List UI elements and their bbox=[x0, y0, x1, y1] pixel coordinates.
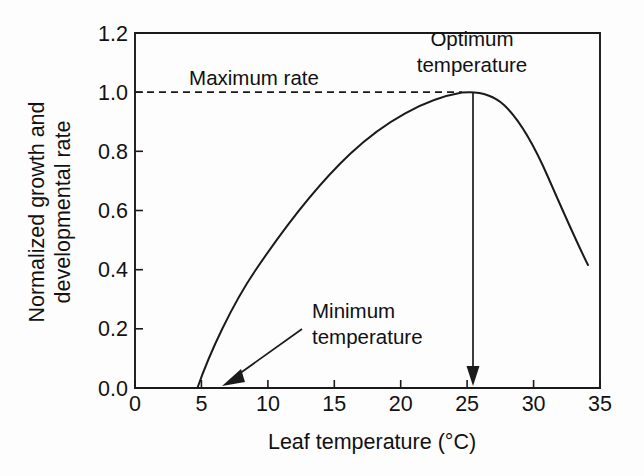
y-tick-label-0.4: 0.4 bbox=[98, 258, 128, 282]
minimum-arrow-head bbox=[222, 369, 245, 386]
x-tick-label-30: 30 bbox=[522, 392, 546, 416]
x-tick-label-5: 5 bbox=[195, 392, 207, 416]
growth-rate-vs-leaf-temperature-chart: 1.2 1.0 0.8 0.6 0.4 0.2 0.0 0 5 10 15 20 bbox=[0, 0, 644, 476]
annotation-optimum-temperature: Optimum temperature bbox=[417, 27, 528, 76]
optimum-temperature-arrow bbox=[467, 93, 480, 387]
x-tick-label-10: 10 bbox=[256, 392, 280, 416]
annotation-minimum-temperature: Minimum temperature bbox=[312, 299, 423, 348]
x-tick-label-0: 0 bbox=[129, 392, 141, 416]
y-tick-label-1.2: 1.2 bbox=[98, 22, 128, 46]
minimum-arrow-shaft bbox=[232, 329, 302, 379]
x-axis-title: Leaf temperature (°C) bbox=[268, 430, 476, 454]
annotation-optimum-line-1: Optimum bbox=[430, 27, 513, 50]
y-axis-title: Normalized growth and developmental rate bbox=[25, 101, 75, 322]
x-tick-label-25: 25 bbox=[455, 392, 479, 416]
minimum-temperature-arrow bbox=[222, 329, 302, 386]
y-tick-label-0.0: 0.0 bbox=[98, 377, 128, 401]
y-axis-title-line-2: developmental rate bbox=[51, 121, 75, 304]
x-tick-label-15: 15 bbox=[322, 392, 346, 416]
x-tick-label-20: 20 bbox=[389, 392, 413, 416]
x-axis-ticks bbox=[135, 380, 600, 388]
y-tick-label-0.8: 0.8 bbox=[98, 140, 128, 164]
annotation-maximum-rate: Maximum rate bbox=[189, 66, 319, 89]
y-axis-ticks bbox=[135, 33, 143, 388]
y-axis-title-line-1: Normalized growth and bbox=[25, 101, 49, 322]
annotation-minimum-line-2: temperature bbox=[312, 325, 423, 348]
figure-canvas: 1.2 1.0 0.8 0.6 0.4 0.2 0.0 0 5 10 15 20 bbox=[0, 0, 644, 476]
y-tick-label-0.2: 0.2 bbox=[98, 317, 128, 341]
y-tick-label-0.6: 0.6 bbox=[98, 199, 128, 223]
y-tick-label-1.0: 1.0 bbox=[98, 81, 128, 105]
annotation-optimum-line-2: temperature bbox=[417, 53, 528, 76]
x-axis-tick-labels: 0 5 10 15 20 25 30 35 bbox=[129, 392, 612, 416]
x-tick-label-35: 35 bbox=[588, 392, 612, 416]
optimum-arrow-head bbox=[467, 366, 480, 386]
y-axis-tick-labels: 1.2 1.0 0.8 0.6 0.4 0.2 0.0 bbox=[98, 22, 128, 401]
annotation-minimum-line-1: Minimum bbox=[312, 299, 395, 322]
